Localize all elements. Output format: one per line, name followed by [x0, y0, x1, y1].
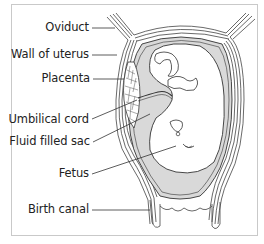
label-wall-of-uterus: Wall of uterus: [11, 48, 89, 61]
label-fluid-filled-sac: Fluid filled sac: [9, 135, 90, 148]
label-umbilical-cord: Umbilical cord: [8, 113, 89, 126]
oviduct-right: [226, 13, 255, 39]
oviduct-left: [107, 13, 134, 40]
placenta: [124, 62, 141, 128]
label-oviduct: Oviduct: [45, 21, 89, 34]
label-birth-canal: Birth canal: [28, 203, 89, 216]
label-placenta: Placenta: [41, 72, 90, 85]
label-fetus: Fetus: [59, 167, 89, 180]
